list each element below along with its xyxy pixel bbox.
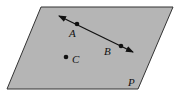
point-a-label: A — [68, 27, 76, 39]
point-a — [75, 22, 80, 27]
point-c — [64, 55, 69, 60]
plane-diagram: A B C P — [0, 0, 181, 95]
point-b — [119, 44, 124, 49]
plane-p — [7, 7, 173, 89]
point-c-label: C — [72, 53, 80, 65]
point-b-label: B — [104, 45, 111, 57]
plane-label: P — [127, 76, 135, 88]
